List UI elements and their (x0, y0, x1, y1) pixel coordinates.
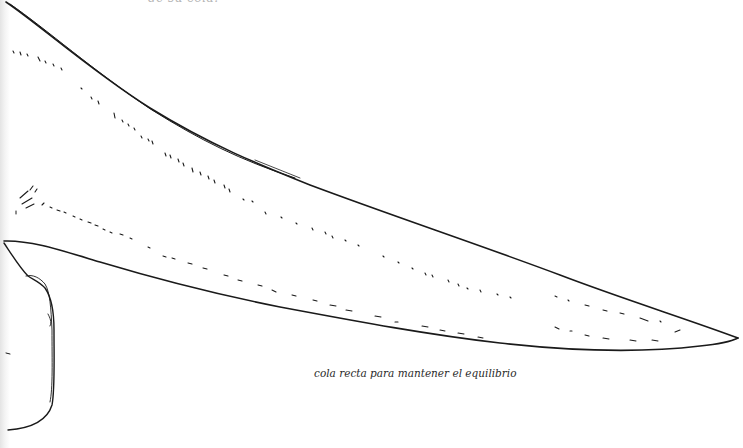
lower-hatching-dashes (20, 186, 680, 341)
tail-illustration (0, 0, 743, 448)
illustration-caption: cola recta para mantener el equilibrio (314, 367, 517, 379)
book-page-scan: de su cola. (0, 0, 743, 448)
tail-lower-outline (4, 241, 738, 350)
margin-marks (6, 211, 16, 354)
leg-outline (4, 243, 54, 430)
upper-hatching-dots (13, 51, 511, 298)
tail-upper-outline (6, 2, 738, 338)
